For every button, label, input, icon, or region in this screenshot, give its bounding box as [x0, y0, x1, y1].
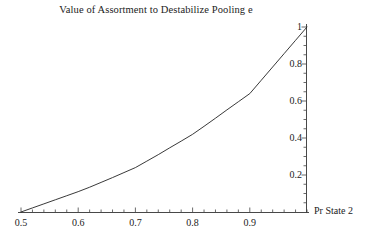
- y-axis-tick-label: 0.2: [276, 169, 302, 180]
- axes-group: [18, 24, 309, 213]
- y-axis-tick-label: 1: [276, 21, 302, 32]
- x-axis-label: Pr State 2: [314, 205, 353, 217]
- x-axis-tick-label: 0.5: [6, 217, 36, 228]
- y-axis-tick-label: 0.6: [276, 95, 302, 106]
- data-line-value-of-assortment: [21, 27, 307, 212]
- y-axis-tick-label: 0.8: [276, 58, 302, 69]
- x-axis-tick-label: 0.7: [120, 217, 150, 228]
- x-axis-tick-label: 0.8: [178, 217, 208, 228]
- x-axis-tick-label: 0.9: [235, 217, 265, 228]
- y-axis-tick-label: 0.4: [276, 132, 302, 143]
- x-axis-tick-label: 0.6: [63, 217, 93, 228]
- plot-canvas: [0, 0, 368, 237]
- chart-figure: Value of Assortment to Destabilize Pooli…: [0, 0, 368, 237]
- data-series-group: [21, 27, 307, 212]
